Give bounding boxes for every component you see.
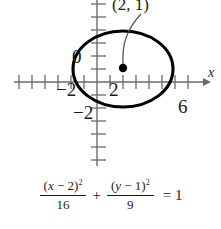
x-tick-label-neg2: −2 — [56, 80, 76, 99]
right-numerator: (y − 1)2 — [107, 178, 154, 195]
origin-label: 0 — [72, 47, 82, 66]
ellipse-equation: (x − 2)2 16 + (y − 1)2 9 = 1 — [0, 178, 221, 213]
left-fraction: (x − 2)2 16 — [40, 178, 87, 213]
right-fraction: (y − 1)2 9 — [107, 178, 154, 213]
x-tick-label-2: 2 — [109, 80, 119, 99]
center-point-dot — [119, 64, 127, 72]
left-minus: − — [54, 178, 68, 193]
left-denominator: 16 — [53, 196, 74, 213]
x-tick-label-6: 6 — [178, 97, 188, 116]
center-point-label: (2, 1) — [112, 0, 149, 13]
ellipse-figure: (2, 1) 0 −2 2 −2 6 x (x − 2)2 16 + (y − … — [0, 0, 221, 229]
left-exponent: 2 — [78, 178, 82, 187]
right-exponent: 2 — [146, 178, 150, 187]
equals-one: = 1 — [163, 187, 183, 204]
leader-line — [123, 14, 141, 64]
y-tick-label-neg2: −2 — [73, 103, 93, 122]
plus-operator: + — [92, 187, 100, 204]
x-axis-label: x — [208, 66, 214, 80]
left-numerator: (x − 2)2 — [40, 178, 87, 195]
right-denominator: 9 — [123, 196, 138, 213]
right-minus: − — [121, 178, 135, 193]
